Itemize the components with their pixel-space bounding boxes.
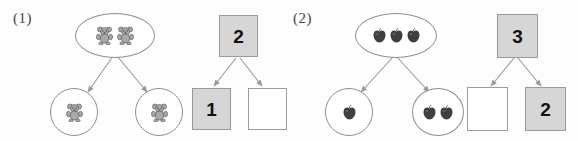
- problem-2: (2): [289, 0, 578, 141]
- apple-icon: [389, 28, 404, 43]
- apple-icon: [439, 105, 454, 120]
- apple-icon: [342, 105, 357, 120]
- problem-1-part-right-box[interactable]: [248, 88, 287, 130]
- apple-icon: [372, 28, 387, 43]
- problem-1-whole-box[interactable]: 2: [219, 15, 258, 57]
- problem-2-whole-tokens: [371, 28, 422, 43]
- problem-1-picture-group: [0, 0, 200, 141]
- teddy-bear-icon: [117, 26, 134, 45]
- problem-2-whole-box[interactable]: 3: [497, 14, 538, 58]
- problem-1: (1): [0, 0, 289, 141]
- problem-1-part-left-tokens: [64, 103, 85, 122]
- problem-1-part-right-circle: [135, 88, 183, 136]
- problem-1-part-right-tokens: [149, 103, 170, 122]
- teddy-bear-icon: [66, 103, 83, 122]
- problem-2-number-bond: 3 2: [459, 0, 578, 141]
- problem-1-number-bond: 2 1: [188, 0, 289, 141]
- problem-2-part-right-box[interactable]: 2: [525, 87, 566, 131]
- problem-2-whole-oval: [355, 13, 437, 58]
- problem-1-part-left-circle: [50, 88, 98, 136]
- apple-icon: [422, 105, 437, 120]
- problem-2-part-right-circle: [412, 88, 464, 136]
- worksheet: (1): [0, 0, 578, 141]
- problem-1-part-left-box[interactable]: 1: [192, 88, 231, 130]
- teddy-bear-icon: [151, 103, 168, 122]
- apple-icon: [406, 28, 421, 43]
- teddy-bear-icon: [96, 26, 113, 45]
- problem-2-part-right-tokens: [421, 105, 455, 120]
- problem-1-whole-tokens: [94, 26, 136, 45]
- problem-2-part-left-tokens: [341, 105, 358, 120]
- problem-1-whole-oval: [75, 13, 155, 58]
- problem-2-part-left-box[interactable]: [467, 87, 508, 131]
- problem-2-part-left-circle: [325, 88, 373, 136]
